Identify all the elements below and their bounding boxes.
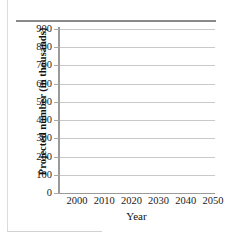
gridline <box>58 65 215 66</box>
gridline <box>58 157 215 158</box>
gridline <box>58 120 215 121</box>
y-tick-mark <box>54 175 59 176</box>
y-axis-line <box>58 27 60 194</box>
y-axis-title-wrap: Projected number (in thousands) <box>12 0 26 200</box>
x-tick-label: 2010 <box>89 196 119 207</box>
chart-figure: 9008007006005004003002001000 20002010202… <box>0 0 229 241</box>
y-tick-mark <box>54 84 59 85</box>
x-axis-title: Year <box>58 210 215 222</box>
y-tick-mark <box>54 102 59 103</box>
gridline <box>58 175 215 176</box>
figure-bottom-rule <box>7 231 102 232</box>
y-tick-mark <box>54 157 59 158</box>
y-tick-label: 0 <box>26 188 52 199</box>
y-tick-mark <box>54 47 59 48</box>
gridline <box>58 102 215 103</box>
y-tick-mark <box>54 138 59 139</box>
gridline <box>58 138 215 139</box>
gridline <box>58 84 215 85</box>
plot-area <box>58 29 215 193</box>
x-axis-line <box>58 193 215 195</box>
x-tick-label: 2040 <box>171 196 201 207</box>
gridline <box>58 47 215 48</box>
y-tick-mark <box>54 29 59 30</box>
y-tick-mark <box>54 120 59 121</box>
y-tick-mark <box>54 65 59 66</box>
x-tick-label: 2050 <box>198 196 228 207</box>
figure-left-rule <box>7 0 8 232</box>
gridline <box>58 29 215 30</box>
y-tick-mark <box>54 193 59 194</box>
y-axis-title: Projected number (in thousands) <box>37 17 48 187</box>
x-tick-label: 2030 <box>144 196 174 207</box>
x-tick-label: 2000 <box>62 196 92 207</box>
x-tick-label: 2020 <box>116 196 146 207</box>
